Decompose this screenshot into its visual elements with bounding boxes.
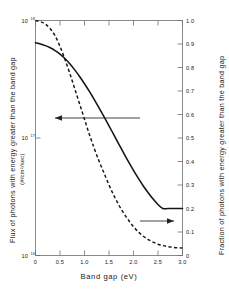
left-tick-label-exponent: 16 [31,251,35,256]
right-tick-label: 0.1 [186,229,194,235]
right-tick-label: 0.4 [186,159,194,165]
left-tick-label-mantissa: 10 [22,18,29,24]
right-axis-ticks [178,21,183,256]
x-tick-label: 0.5 [56,259,64,265]
right-tick-label: 0.7 [186,88,194,94]
left-axis-subtitle: (#/cm²/sec) [19,153,25,185]
annotation-left-arrow [55,115,140,121]
x-tick-label: 1.0 [80,259,88,265]
data-series-dashed [36,21,183,248]
chart-svg: 0 0.5 1.0 1.5 2.0 2.5 3.0 Band gap (eV) … [0,0,229,293]
right-tick-label: 0.9 [186,41,194,47]
right-tick-label: 0.8 [186,65,194,71]
right-tick-label: 1.0 [186,18,194,24]
right-tick-label: 0 [186,253,189,259]
x-axis-ticks [36,21,183,256]
annotation-right-arrow [140,218,174,224]
right-axis-title: Fraction of photons with energy greater … [217,56,226,255]
right-tick-label: 0.5 [186,135,194,141]
x-tick-label: 1.5 [105,259,113,265]
left-tick-label-group: 10 18 [22,16,35,24]
left-tick-label-exponent: 18 [31,16,35,21]
right-axis-tick-labels: 1.0 0.9 0.8 0.7 0.6 0.5 0.4 0.3 0.2 0.1 … [186,18,194,259]
left-tick-label-group: 10 16 [22,251,35,259]
left-tick-label-group: 10 17 [22,133,35,141]
x-axis-tick-labels: 0 0.5 1.0 1.5 2.0 2.5 3.0 [34,259,187,265]
left-axis-ticks [36,21,41,256]
left-tick-label-mantissa: 10 [22,135,29,141]
left-axis-tick-labels: 10 18 10 17 10 16 [22,16,35,259]
x-axis-title: Band gap (eV) [81,272,138,281]
x-tick-label: 0 [34,259,37,265]
left-tick-label-mantissa: 10 [22,253,29,259]
x-tick-label: 2.5 [154,259,162,265]
left-tick-label-exponent: 17 [31,133,35,138]
right-tick-label: 0.3 [186,182,194,188]
right-tick-label: 0.6 [186,112,194,118]
plot-frame [36,21,183,256]
left-axis-title: Flux of photons with energy greater than… [8,57,17,243]
data-series-solid [36,43,183,209]
x-tick-label: 2.0 [129,259,137,265]
right-tick-label: 0.2 [186,206,194,212]
x-tick-label: 3.0 [178,259,186,265]
chart-figure: 0 0.5 1.0 1.5 2.0 2.5 3.0 Band gap (eV) … [0,0,229,293]
